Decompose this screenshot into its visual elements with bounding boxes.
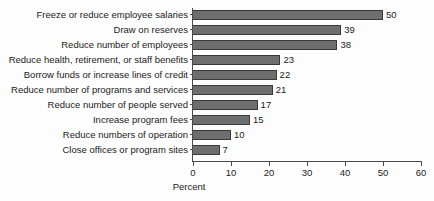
x-tick-mark xyxy=(345,162,346,166)
bar-value-label: 15 xyxy=(253,113,264,127)
x-tick-mark xyxy=(269,162,270,166)
category-label: Reduce health, retirement, or staff bene… xyxy=(9,53,188,67)
x-tick-mark xyxy=(307,162,308,166)
x-axis-tick-label: 0 xyxy=(190,167,195,179)
category-label: Increase program fees xyxy=(93,113,188,127)
bar-row: Reduce number of people served 17 xyxy=(193,98,421,113)
bar-value-label: 22 xyxy=(280,68,291,82)
x-axis-tick-label: 20 xyxy=(264,167,275,179)
bar xyxy=(193,130,231,140)
bar-chart: Freeze or reduce employee salaries 50 Dr… xyxy=(0,0,434,201)
bar-row: Increase program fees 15 xyxy=(193,113,421,128)
bar-row: Freeze or reduce employee salaries 50 xyxy=(193,8,421,23)
bar-value-label: 21 xyxy=(276,83,287,97)
bar xyxy=(193,100,258,110)
bar xyxy=(193,40,337,50)
category-label: Reduce number of employees xyxy=(61,38,188,52)
bar xyxy=(193,145,220,155)
x-axis-title: Percent xyxy=(0,181,434,192)
x-axis-tick-label: 30 xyxy=(302,167,313,179)
category-label: Reduce number of people served xyxy=(48,98,188,112)
bar-row: Draw on reserves 39 xyxy=(193,23,421,38)
plot-area: Freeze or reduce employee salaries 50 Dr… xyxy=(193,8,421,162)
x-axis-tick-label: 60 xyxy=(416,167,427,179)
bar-row: Reduce health, retirement, or staff bene… xyxy=(193,53,421,68)
bar xyxy=(193,85,273,95)
bar-row: Close offices or program sites 7 xyxy=(193,143,421,158)
bar-row: Reduce number of employees 38 xyxy=(193,38,421,53)
x-tick-mark xyxy=(421,162,422,166)
category-label: Reduce number of programs and services xyxy=(11,83,188,97)
bar xyxy=(193,70,277,80)
bar-value-label: 17 xyxy=(261,98,272,112)
bar-value-label: 39 xyxy=(344,23,355,37)
category-label: Borrow funds or increase lines of credit xyxy=(24,68,188,82)
category-label: Freeze or reduce employee salaries xyxy=(36,8,188,22)
x-axis-title-text: Percent xyxy=(173,181,206,192)
bar xyxy=(193,10,383,20)
category-label: Draw on reserves xyxy=(114,23,188,37)
bar-value-label: 38 xyxy=(340,38,351,52)
bar xyxy=(193,115,250,125)
x-axis-tick-label: 10 xyxy=(226,167,237,179)
x-tick-mark xyxy=(193,162,194,166)
category-label: Reduce numbers of operation xyxy=(63,128,188,142)
bar xyxy=(193,55,280,65)
bar-value-label: 50 xyxy=(386,8,397,22)
bar-value-label: 23 xyxy=(283,53,294,67)
bar xyxy=(193,25,341,35)
bar-row: Borrow funds or increase lines of credit… xyxy=(193,68,421,83)
bar-value-label: 10 xyxy=(234,128,245,142)
x-axis-tick-label: 50 xyxy=(378,167,389,179)
bar-row: Reduce number of programs and services 2… xyxy=(193,83,421,98)
category-label: Close offices or program sites xyxy=(63,143,189,157)
bar-value-label: 7 xyxy=(223,143,228,157)
x-tick-mark xyxy=(231,162,232,166)
x-tick-mark xyxy=(383,162,384,166)
x-axis-tick-label: 40 xyxy=(340,167,351,179)
bar-row: Reduce numbers of operation 10 xyxy=(193,128,421,143)
